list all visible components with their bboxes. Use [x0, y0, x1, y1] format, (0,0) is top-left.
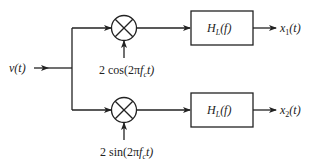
input-label: v(t) — [9, 62, 26, 74]
top-filter-label: HL(f) — [207, 22, 231, 37]
top-oscillator-label: 2 cos(2πfct) — [99, 64, 154, 79]
bottom-multiplier-icon — [112, 98, 137, 123]
bottom-oscillator-label: 2 sin(2πfct) — [100, 146, 153, 161]
bottom-output-label: x2(t) — [280, 104, 301, 119]
bottom-filter-label: HL(f) — [207, 104, 231, 119]
top-output-label: x1(t) — [280, 22, 301, 37]
diagram-canvas — [0, 0, 310, 164]
top-multiplier-icon — [112, 16, 137, 41]
